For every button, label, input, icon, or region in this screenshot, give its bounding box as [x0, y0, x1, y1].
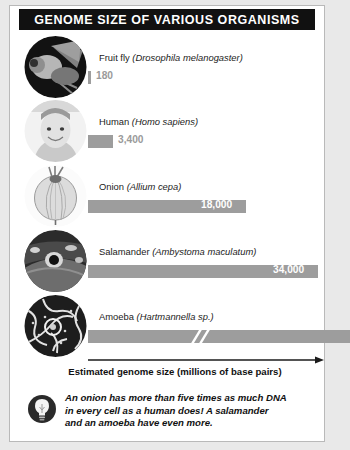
common-name: Onion [99, 181, 124, 192]
onion-photo [21, 165, 90, 227]
amoeba-photo [21, 295, 90, 357]
scientific-name: (Allium cepa) [127, 181, 182, 192]
bar-human [88, 135, 113, 148]
species-label: Salamander (Ambystoma maculatum) [99, 246, 256, 257]
scientific-name: (Hartmannella sp.) [137, 311, 214, 322]
species-label: Onion (Allium cepa) [99, 181, 181, 192]
common-name: Salamander [99, 246, 150, 257]
bar-value-label: 34,000 [273, 264, 304, 275]
bar-value-label: 3,400 [118, 134, 144, 145]
species-label: Human (Homo sapiens) [99, 116, 198, 127]
salamander-photo [21, 230, 90, 292]
footer-callout: An onion has more than five times as muc… [19, 392, 315, 437]
species-label: Amoeba (Hartmannella sp.) [99, 311, 214, 322]
fruit-fly-photo [21, 36, 90, 98]
common-name: Amoeba [99, 311, 134, 322]
chart-row: Salamander (Ambystoma maculatum) 34,000 [0, 230, 350, 292]
title-banner: GENOME SIZE OF VARIOUS ORGANISMS [19, 9, 315, 30]
footer-line-1: An onion has more than five times as muc… [65, 392, 311, 405]
axis-break-icon [188, 330, 214, 343]
page-title: GENOME SIZE OF VARIOUS ORGANISMS [34, 13, 299, 27]
scientific-name: (Homo sapiens) [132, 116, 198, 127]
lightbulb-icon [27, 394, 57, 424]
scientific-name: (Ambystoma maculatum) [152, 246, 256, 257]
human-photo [21, 100, 90, 162]
bar-value-label: 18,000 [201, 199, 232, 210]
axis-label: Estimated genome size (millions of base … [0, 366, 350, 377]
x-axis-arrow [88, 355, 324, 365]
footer-text: An onion has more than five times as muc… [65, 392, 311, 430]
species-label: Fruit fly (Drosophila melanogaster) [99, 52, 243, 63]
bar-value-label: 180 [96, 70, 113, 81]
bar-fruit-fly [88, 71, 91, 84]
scientific-name: (Drosophila melanogaster) [132, 52, 242, 63]
common-name: Fruit fly [99, 52, 130, 63]
chart-row: Onion (Allium cepa) 18,000 [0, 165, 350, 227]
footer-line-2: in every cell as a human does! A salaman… [65, 405, 311, 418]
common-name: Human [99, 116, 129, 127]
footer-line-3: and an amoeba have even more. [65, 417, 311, 430]
chart-row: Fruit fly (Drosophila melanogaster) 180 [0, 36, 350, 98]
chart-row: Human (Homo sapiens) 3,400 [0, 100, 350, 162]
chart-row: Amoeba (Hartmannella sp.) [0, 295, 350, 363]
bar-amoeba [88, 330, 350, 343]
